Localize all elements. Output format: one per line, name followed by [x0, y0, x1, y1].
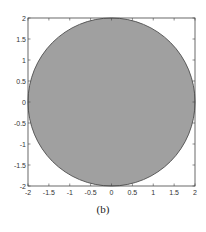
y-tick-label: 2	[22, 15, 26, 22]
y-tick-label: -1	[20, 141, 26, 148]
x-tick-label: 0.5	[128, 189, 138, 196]
y-tick-label: 0.5	[16, 78, 26, 85]
x-tick-label: 1	[151, 189, 155, 196]
x-tick-label: -1.5	[43, 189, 55, 196]
x-tick-label: -1	[67, 189, 73, 196]
x-tick-label: -0.5	[85, 189, 97, 196]
x-tick-label: 2	[193, 189, 197, 196]
y-tick-label: 0	[22, 99, 26, 106]
figure-caption: (b)	[0, 203, 206, 215]
x-tick-label: -2	[25, 189, 31, 196]
plot-area	[28, 18, 195, 186]
y-tick-label: 1	[22, 57, 26, 64]
x-tick-label: 1.5	[169, 189, 179, 196]
filled-circle	[28, 18, 195, 186]
y-tick-label: -1.5	[14, 162, 26, 169]
x-tick-label: 0	[110, 189, 114, 196]
y-tick-label: -0.5	[14, 120, 26, 127]
circle-plot: -2-1.5-1-0.500.511.52 21.510.50-0.5-1-1.…	[0, 0, 206, 200]
y-tick-label: 1.5	[16, 36, 26, 43]
y-tick-label: -2	[20, 183, 26, 190]
